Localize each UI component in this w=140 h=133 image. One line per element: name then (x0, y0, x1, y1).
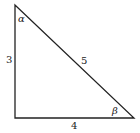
side-vertical-label: 3 (6, 54, 12, 65)
side-horizontal-label: 4 (71, 120, 77, 131)
angle-alpha-label: α (18, 13, 25, 24)
right-triangle (15, 5, 134, 118)
angle-beta-label: β (111, 105, 118, 116)
side-hypotenuse-label: 5 (81, 55, 87, 66)
triangle-diagram: 3 5 4 α β (0, 0, 140, 133)
